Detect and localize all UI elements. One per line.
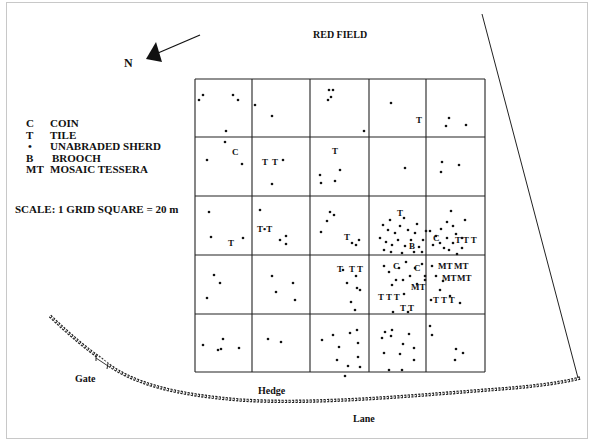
north-label: N [124, 56, 133, 71]
find-marker: MT [438, 261, 453, 271]
find-marker: T T T [433, 295, 455, 305]
legend-item-sherd: •UNABRADED SHERD [26, 141, 161, 153]
find-marker: MT [442, 273, 457, 283]
find-marker: T [344, 232, 350, 242]
find-marker: T [228, 238, 234, 248]
find-marker: T [272, 157, 278, 167]
north-arrow-icon [146, 35, 200, 62]
find-marker: T [397, 208, 403, 218]
find-marker: T T T [378, 292, 400, 302]
find-marker: T•T [257, 224, 272, 234]
hedge-line [50, 316, 580, 401]
field-boundary [482, 14, 578, 378]
find-marker: C [393, 261, 400, 271]
find-marker: T T [400, 303, 414, 313]
hedge-label: Hedge [258, 385, 285, 396]
field-title: RED FIELD [313, 29, 367, 40]
find-marker: MT [411, 282, 426, 292]
find-markers: CTTTTTT•TTTBCT T TTT TCCMTMTMTMTMTT T TT… [228, 115, 477, 313]
lane-label: Lane [353, 413, 375, 424]
sherd-points [198, 89, 468, 378]
find-marker: C [433, 233, 440, 243]
gate-label: Gate [75, 373, 96, 384]
find-marker: T T [349, 264, 363, 274]
legend-item-coin: CCOIN [26, 118, 161, 130]
legend: CCOIN TTILE •UNABRADED SHERD BBROOCH MTM… [26, 118, 161, 176]
legend-item-mosaic: MTMOSAIC TESSERA [26, 164, 161, 176]
find-marker: T [262, 157, 268, 167]
find-marker: T [337, 264, 343, 274]
find-marker: MT [454, 261, 469, 271]
find-marker: C [232, 147, 239, 157]
find-marker: B [409, 241, 415, 251]
find-marker: T [416, 115, 422, 125]
find-marker: T [332, 146, 338, 156]
find-marker: T T T [455, 235, 477, 245]
scale-label: SCALE: 1 GRID SQUARE = 20 m [15, 203, 178, 215]
survey-grid [195, 79, 485, 372]
find-marker: MT [457, 273, 472, 283]
find-marker: C [414, 263, 421, 273]
